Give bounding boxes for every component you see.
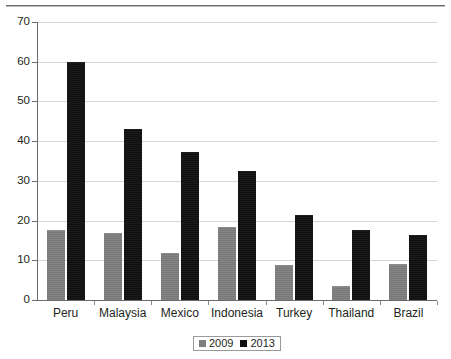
x-axis-tick-mark xyxy=(437,301,438,305)
bar-chart: 010203040506070 2009 2013 PeruMalaysiaMe… xyxy=(0,0,451,359)
plot-area xyxy=(37,22,437,300)
y-axis-tick-label: 70 xyxy=(2,16,30,27)
bar-thailand-2013 xyxy=(352,230,370,300)
gridline xyxy=(37,22,437,23)
y-axis-tick-mark xyxy=(32,101,37,102)
y-axis-tick-label: 30 xyxy=(2,175,30,186)
bar-indonesia-2013 xyxy=(238,171,256,300)
x-axis-category-label-turkey: Turkey xyxy=(266,306,323,320)
y-axis-tick-mark xyxy=(32,62,37,63)
x-axis-category-label-mexico: Mexico xyxy=(151,306,208,320)
bar-brazil-2013 xyxy=(409,235,427,300)
y-axis-tick-mark xyxy=(32,22,37,23)
x-axis-line xyxy=(37,300,437,301)
legend-label-2013: 2013 xyxy=(250,338,274,349)
x-axis-category-label-malaysia: Malaysia xyxy=(94,306,151,320)
y-axis-tick-label: 50 xyxy=(2,95,30,106)
gridline xyxy=(37,260,437,261)
chart-legend: 2009 2013 xyxy=(193,336,281,351)
gridline xyxy=(37,221,437,222)
y-axis-tick-label: 40 xyxy=(2,135,30,146)
x-axis-tick-mark xyxy=(151,301,152,305)
bar-malaysia-2013 xyxy=(124,129,142,300)
y-axis-tick-label: 10 xyxy=(2,254,30,265)
bar-turkey-2013 xyxy=(295,215,313,300)
legend-item-2009: 2009 xyxy=(199,338,233,349)
x-axis-tick-mark xyxy=(208,301,209,305)
x-axis-tick-mark xyxy=(380,301,381,305)
y-axis-tick-mark xyxy=(32,260,37,261)
x-axis-category-label-peru: Peru xyxy=(37,306,94,320)
y-axis-line xyxy=(37,22,38,301)
y-axis-tick-label: 60 xyxy=(2,56,30,67)
bar-peru-2009 xyxy=(47,230,65,300)
x-axis-tick-mark xyxy=(266,301,267,305)
y-axis-tick-label: 20 xyxy=(2,215,30,226)
y-axis-tick-mark xyxy=(32,300,37,301)
x-axis-category-label-thailand: Thailand xyxy=(323,306,380,320)
y-axis-labels: 010203040506070 xyxy=(0,0,30,359)
bar-brazil-2009 xyxy=(389,264,407,300)
gridline xyxy=(37,101,437,102)
gridline xyxy=(37,141,437,142)
x-axis-category-label-indonesia: Indonesia xyxy=(208,306,265,320)
bar-turkey-2009 xyxy=(275,265,293,300)
y-axis-tick-mark xyxy=(32,141,37,142)
bar-malaysia-2009 xyxy=(104,233,122,300)
gridline xyxy=(37,62,437,63)
bar-indonesia-2009 xyxy=(218,227,236,300)
bar-mexico-2009 xyxy=(161,253,179,300)
legend-label-2009: 2009 xyxy=(209,338,233,349)
gridline xyxy=(37,181,437,182)
x-axis-tick-mark xyxy=(323,301,324,305)
y-axis-tick-mark xyxy=(32,221,37,222)
black-square-icon xyxy=(240,340,247,347)
y-axis-tick-label: 0 xyxy=(2,294,30,305)
y-axis-tick-mark xyxy=(32,181,37,182)
bar-thailand-2009 xyxy=(332,286,350,300)
bar-mexico-2013 xyxy=(181,152,199,300)
x-axis-category-label-brazil: Brazil xyxy=(380,306,437,320)
bar-peru-2013 xyxy=(67,62,85,300)
legend-item-2013: 2013 xyxy=(240,338,274,349)
gray-square-icon xyxy=(199,340,206,347)
x-axis-tick-mark xyxy=(94,301,95,305)
